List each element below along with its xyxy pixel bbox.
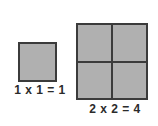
figure-root: 1 x 1 = 1 2 x 2 = 4 xyxy=(0,0,158,126)
square-group-2x2: 2 x 2 = 4 xyxy=(76,23,150,120)
square-2x2-cell xyxy=(113,63,146,99)
square-2x2-label: 2 x 2 = 4 xyxy=(80,103,150,116)
square-group-1x1: 1 x 1 = 1 xyxy=(8,42,72,100)
square-2x2-cell xyxy=(78,63,111,99)
square-2x2-cell xyxy=(113,25,146,61)
square-2x2-cell xyxy=(78,25,111,61)
square-1x1-shape xyxy=(18,42,57,82)
square-1x1-label: 1 x 1 = 1 xyxy=(8,84,72,97)
square-2x2-shape xyxy=(76,23,148,100)
